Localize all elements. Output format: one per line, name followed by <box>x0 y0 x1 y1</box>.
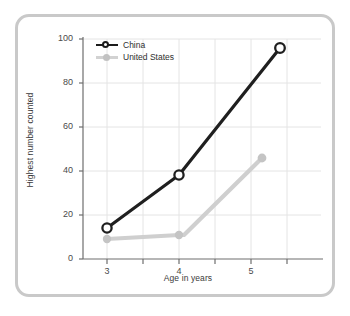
line-chart: 100 80 60 40 20 0 3 4 5 Highest number c… <box>18 17 338 300</box>
data-point-us-age4 <box>175 231 183 239</box>
data-point-china-age5 <box>275 43 285 53</box>
y-axis-title: Highest number counted <box>25 70 35 210</box>
data-point-china-age4 <box>174 170 183 179</box>
y-tick-label-80: 80 <box>47 77 73 87</box>
series-china <box>102 43 284 232</box>
chart-legend: China United States <box>96 39 174 63</box>
legend-label-united-states: United States <box>118 52 174 62</box>
legend-label-china: China <box>118 40 145 50</box>
data-point-china-age3 <box>102 223 111 232</box>
y-tick-label-20: 20 <box>47 209 73 219</box>
data-point-us-age3 <box>103 235 111 243</box>
open-circle-marker-icon <box>96 39 118 51</box>
horizontal-gridlines <box>83 39 321 215</box>
y-tick-label-0: 0 <box>47 253 73 263</box>
legend-item-united-states: United States <box>96 51 174 63</box>
y-tick-label-60: 60 <box>47 121 73 131</box>
filled-circle-marker-icon <box>96 51 118 63</box>
data-point-us-age5 <box>258 154 267 163</box>
figure-card: 100 80 60 40 20 0 3 4 5 Highest number c… <box>15 14 335 297</box>
legend-item-china: China <box>96 39 174 51</box>
y-tick-label-40: 40 <box>47 165 73 175</box>
x-axis-title: Age in years <box>88 273 288 283</box>
x-axis-ticks <box>107 259 287 264</box>
y-tick-label-100: 100 <box>47 33 73 43</box>
